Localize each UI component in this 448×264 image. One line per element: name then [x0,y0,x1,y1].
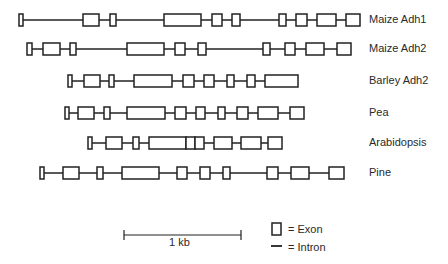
exon-box [279,14,286,26]
exon-box [70,43,76,55]
exon-box [78,107,94,119]
exon-box [164,14,201,26]
exon-box [134,75,172,87]
legend-intron-label: = Intron [288,242,326,253]
exon-box [268,137,282,149]
exon-box [175,107,186,119]
exon-box [65,107,69,119]
exon-box [83,14,99,26]
exon-box [19,14,23,26]
exon-box [232,14,240,26]
exon-box [204,75,214,87]
exon-box [63,167,79,179]
exon-box [337,43,351,55]
legend-exon-icon [272,223,281,235]
exon-box [110,14,116,26]
scale-bar-label: 1 kb [169,237,190,248]
exon-box [317,14,336,26]
exon-box [127,43,164,55]
exon-box [122,167,159,179]
exon-box [149,137,186,149]
exon-box [346,14,360,26]
exon-box [109,75,114,87]
exon-box [183,75,194,87]
exon-box [306,43,324,55]
gene-label: Arabidopsis [369,137,426,148]
exon-box [40,167,44,179]
exon-box [195,137,204,149]
exon-box [68,75,72,87]
exon-box [241,137,261,149]
exon-box [285,43,295,55]
exon-box [177,167,187,179]
exon-box [133,137,139,149]
exon-box [106,137,122,149]
exon-box [218,107,225,119]
exon-box [329,167,344,179]
exon-box [104,107,110,119]
exon-box [127,107,165,119]
exon-box [227,75,234,87]
legend-exon-label: = Exon [288,224,323,235]
exon-box [27,43,32,55]
exon-box [175,43,185,55]
exon-box [198,43,206,55]
exon-box [214,137,232,149]
gene-label: Barley Adh2 [369,75,428,86]
exon-box [212,14,222,26]
exon-box [196,107,205,119]
exon-box [88,137,92,149]
exon-box [237,107,248,119]
exon-box [290,107,304,119]
gene-label: Maize Adh1 [369,14,426,25]
exon-box [247,75,255,87]
exon-box [43,43,60,55]
exon-box [258,107,278,119]
exon-box [200,167,210,179]
exon-box [97,167,103,179]
gene-label: Pea [369,107,389,118]
exon-box [291,167,309,179]
exon-box [84,75,100,87]
gene-label: Maize Adh2 [369,43,426,54]
gene-label: Pine [369,167,391,178]
exon-box [223,167,230,179]
exon-box [263,43,270,55]
exon-box [296,14,307,26]
exon-box [186,137,195,149]
exon-box [265,75,298,87]
gene-structure-diagram [0,0,448,264]
exon-box [267,167,278,179]
